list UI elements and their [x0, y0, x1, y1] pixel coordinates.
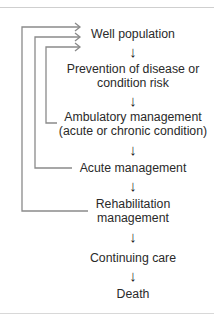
node-prevention: Prevention of disease or condition risk	[56, 62, 210, 90]
node-ambulatory: Ambulatory management (acute or chronic …	[56, 110, 210, 138]
node-acute: Acute management	[56, 161, 210, 175]
down-arrow-icon: ↓	[126, 268, 140, 283]
node-label: Continuing care	[90, 251, 176, 265]
node-rehabilitation: Rehabilitation management	[56, 197, 210, 225]
down-arrow-icon: ↓	[126, 93, 140, 108]
node-label: Rehabilitation	[56, 197, 210, 211]
down-arrow-icon: ↓	[126, 229, 140, 244]
node-death: Death	[56, 287, 210, 301]
loop-acute-to-well	[35, 37, 80, 168]
down-arrow-icon: ↓	[126, 44, 140, 59]
bottom-rule	[0, 313, 214, 314]
node-label: Prevention of disease or	[56, 62, 210, 76]
node-well-population: Well population	[56, 27, 210, 41]
node-continuing-care: Continuing care	[56, 251, 210, 265]
down-arrow-icon: ↓	[126, 178, 140, 193]
node-label: Acute management	[80, 161, 187, 175]
node-label: Ambulatory management	[56, 110, 210, 124]
node-label: Well population	[91, 27, 175, 41]
node-label: condition risk	[56, 76, 210, 90]
node-label: Death	[117, 287, 150, 301]
node-label: (acute or chronic condition)	[56, 124, 210, 138]
node-label: management	[56, 211, 210, 225]
down-arrow-icon: ↓	[126, 142, 140, 157]
feedback-loops	[0, 0, 214, 316]
